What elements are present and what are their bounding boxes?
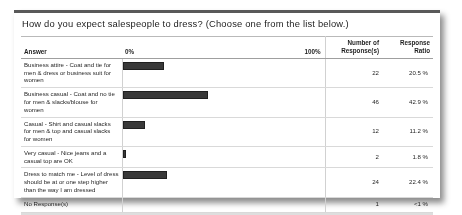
responses-header-line2: Response(s): [341, 47, 379, 54]
table-row: Dress to match me - Level of dress shoul…: [21, 168, 433, 197]
answer-label: Business casual - Coat and no tie for me…: [21, 88, 122, 117]
panel-top-rule: [14, 10, 440, 13]
column-header-answer: Answer: [21, 37, 122, 59]
bar-fill: [123, 150, 127, 158]
scale-min-label: 0%: [125, 48, 134, 55]
response-bar-cell: [122, 146, 325, 168]
scale-max-label: 100%: [304, 48, 320, 55]
response-count: 24: [325, 168, 382, 197]
bar-fill: [123, 91, 209, 99]
response-bar-cell: [122, 58, 325, 87]
bar-track: [123, 150, 323, 158]
responses-header-line1: Number of: [348, 39, 380, 46]
survey-results-table: Answer 0% 100% Number of Response(s) Res…: [21, 36, 433, 215]
answer-label: Casual - Shirt and casual slacks for men…: [21, 117, 122, 146]
bar-track: [123, 62, 323, 70]
response-count: 46: [325, 88, 382, 117]
response-bar-cell: [122, 168, 325, 197]
response-count: 2: [325, 146, 382, 168]
response-ratio: 42.9 %: [382, 88, 433, 117]
table-row: No Response(s)1<1 %: [21, 197, 433, 212]
response-bar-cell: [122, 88, 325, 117]
response-ratio: 1.8 %: [382, 146, 433, 168]
bar-fill: [123, 121, 145, 129]
bar-fill: [123, 171, 168, 179]
answer-label: No Response(s): [21, 197, 122, 212]
response-count: 1: [325, 197, 382, 212]
table-header: Answer 0% 100% Number of Response(s) Res…: [21, 37, 433, 59]
table-row: Very casual - Nice jeans and a casual to…: [21, 146, 433, 168]
totals-label: Totals: [21, 212, 325, 215]
column-header-ratio: Response Ratio: [382, 37, 433, 59]
table-body: Business attire - Coat and tie for men &…: [21, 58, 433, 212]
ratio-header-line2: Ratio: [414, 47, 430, 54]
response-count: 12: [325, 117, 382, 146]
answer-label: Very casual - Nice jeans and a casual to…: [21, 146, 122, 168]
bar-track: [123, 201, 323, 209]
totals-responses: 107: [325, 212, 382, 215]
table-row: Business casual - Coat and no tie for me…: [21, 88, 433, 117]
response-ratio: <1 %: [382, 197, 433, 212]
bar-track: [123, 121, 323, 129]
response-ratio: 22.4 %: [382, 168, 433, 197]
bar-track: [123, 91, 323, 99]
table-row: Business attire - Coat and tie for men &…: [21, 58, 433, 87]
bar-fill: [123, 62, 164, 70]
response-bar-cell: [122, 197, 325, 212]
response-ratio: 11.2 %: [382, 117, 433, 146]
column-header-scale: 0% 100%: [122, 37, 325, 59]
table-footer: Totals 107 100%: [21, 212, 433, 215]
response-ratio: 20.5 %: [382, 58, 433, 87]
ratio-header-line1: Response: [400, 39, 430, 46]
table-row: Casual - Shirt and casual slacks for men…: [21, 117, 433, 146]
survey-question: How do you expect salespeople to dress? …: [22, 18, 434, 29]
header-row: Answer 0% 100% Number of Response(s) Res…: [21, 37, 433, 59]
answer-label: Dress to match me - Level of dress shoul…: [21, 168, 122, 197]
answer-label: Business attire - Coat and tie for men &…: [21, 58, 122, 87]
response-count: 22: [325, 58, 382, 87]
column-header-responses: Number of Response(s): [325, 37, 382, 59]
bar-track: [123, 171, 323, 179]
totals-ratio: 100%: [382, 212, 433, 215]
totals-row: Totals 107 100%: [21, 212, 433, 215]
survey-result-panel: How do you expect salespeople to dress? …: [14, 10, 440, 198]
response-bar-cell: [122, 117, 325, 146]
